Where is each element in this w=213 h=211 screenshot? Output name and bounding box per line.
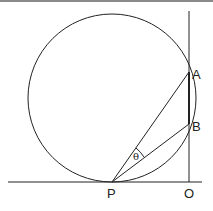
label-theta: θ: [133, 151, 139, 162]
line-pa: [112, 72, 189, 182]
label-p: P: [107, 186, 116, 201]
label-o: O: [184, 186, 194, 201]
line-pb: [112, 124, 189, 182]
label-b: B: [192, 119, 201, 134]
geometry-diagram: A B P O θ: [0, 0, 213, 211]
label-a: A: [192, 67, 201, 82]
